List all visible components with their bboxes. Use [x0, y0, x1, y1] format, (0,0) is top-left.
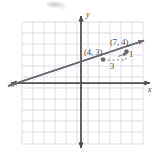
plotted-points: [101, 49, 129, 62]
plotted-line: [8, 41, 144, 87]
axes: [11, 16, 150, 148]
point-label-7-4: (7, 4): [110, 38, 128, 47]
run-label: 3: [110, 62, 114, 71]
x-axis-label: x: [148, 86, 152, 94]
graph-figure: y x (4, 3) (7, 4) 3 1: [0, 0, 161, 155]
coordinate-plane-svg: [0, 0, 161, 155]
rise-label: 1: [129, 50, 133, 59]
y-axis-label: y: [86, 11, 90, 19]
point-4-3: [101, 57, 106, 62]
point-label-4-3: (4, 3): [84, 48, 102, 57]
